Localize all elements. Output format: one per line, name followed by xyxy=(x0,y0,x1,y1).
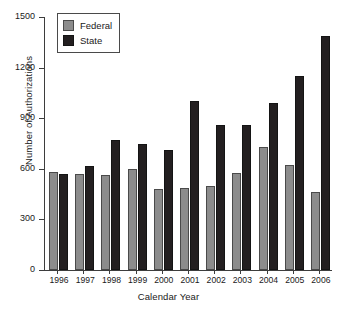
bar-state-2003 xyxy=(242,125,251,270)
y-axis-tick-label: 1200 xyxy=(15,62,35,72)
bar-federal-2004 xyxy=(259,147,268,270)
bar-group: 2001 xyxy=(179,17,199,270)
legend-swatch-federal-icon xyxy=(63,20,74,31)
bar-group: 2000 xyxy=(153,17,173,270)
bar-state-2000 xyxy=(164,150,173,270)
x-axis-tick xyxy=(293,270,294,274)
x-axis-tick xyxy=(162,270,163,274)
x-axis-tick xyxy=(188,270,189,274)
x-axis-tick xyxy=(57,270,58,274)
y-axis-tick-label: 300 xyxy=(20,213,35,223)
bar-chart: Number of Authorizations 030060090012001… xyxy=(0,0,337,309)
x-axis-tick xyxy=(240,270,241,274)
x-axis-tick xyxy=(214,270,215,274)
bar-federal-1997 xyxy=(75,174,84,270)
legend-swatch-state-icon xyxy=(63,35,74,46)
bar-state-2005 xyxy=(295,76,304,270)
chart-legend: Federal State xyxy=(57,13,120,53)
x-axis-tick xyxy=(109,270,110,274)
x-axis-tick xyxy=(136,270,137,274)
legend-item-federal: Federal xyxy=(63,18,112,33)
y-axis-line xyxy=(44,17,45,270)
bar-group: 1998 xyxy=(100,17,120,270)
bar-group: 2002 xyxy=(205,17,225,270)
bar-state-1997 xyxy=(85,166,94,270)
bar-state-2004 xyxy=(269,103,278,270)
y-axis-tick: 300 xyxy=(39,219,44,220)
bar-federal-2002 xyxy=(206,186,215,270)
bar-state-2001 xyxy=(190,101,199,271)
bar-group: 2003 xyxy=(231,17,251,270)
bar-federal-1999 xyxy=(128,169,137,270)
bar-state-1999 xyxy=(138,144,147,270)
y-axis-tick: 1500 xyxy=(39,17,44,18)
bar-group: 1999 xyxy=(127,17,147,270)
y-axis-tick: 1200 xyxy=(39,68,44,69)
legend-label-state: State xyxy=(80,35,102,46)
y-axis-tick-label: 1500 xyxy=(15,11,35,21)
bar-federal-2001 xyxy=(180,188,189,270)
x-axis-title: Calendar Year xyxy=(0,291,337,302)
bar-group: 2004 xyxy=(258,17,278,270)
legend-item-state: State xyxy=(63,33,112,48)
y-axis-tick-label: 600 xyxy=(20,163,35,173)
x-axis-label-2006: 2006 xyxy=(304,275,337,285)
bar-group: 2006 xyxy=(310,17,330,270)
bar-federal-2003 xyxy=(232,173,241,270)
bar-federal-1996 xyxy=(49,172,58,270)
bar-group: 2005 xyxy=(284,17,304,270)
x-axis-tick xyxy=(319,270,320,274)
y-axis-tick: 0 xyxy=(39,270,44,271)
x-axis-tick xyxy=(267,270,268,274)
bar-federal-2005 xyxy=(285,165,294,270)
bar-federal-1998 xyxy=(101,175,110,270)
y-axis-tick: 900 xyxy=(39,118,44,119)
bar-group: 1997 xyxy=(74,17,94,270)
y-axis-tick-label: 0 xyxy=(30,264,35,274)
bar-state-1998 xyxy=(111,140,120,270)
bar-group: 1996 xyxy=(48,17,68,270)
y-axis-tick: 600 xyxy=(39,169,44,170)
bar-state-2006 xyxy=(321,36,330,270)
bar-state-2002 xyxy=(216,125,225,270)
bar-federal-2006 xyxy=(311,192,320,270)
legend-label-federal: Federal xyxy=(80,20,112,31)
bar-state-1996 xyxy=(59,174,68,270)
x-axis-tick xyxy=(83,270,84,274)
y-axis-tick-label: 900 xyxy=(20,112,35,122)
bar-federal-2000 xyxy=(154,189,163,270)
plot-area: 030060090012001500 199619971998199920002… xyxy=(44,17,332,270)
